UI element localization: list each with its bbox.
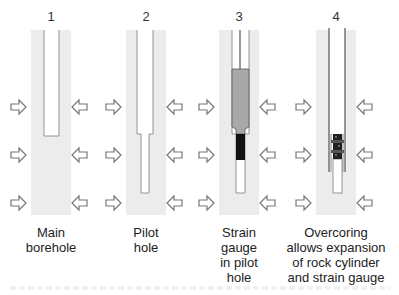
hollow-arrow-icon — [357, 100, 372, 114]
hollow-arrow-icon — [106, 196, 121, 210]
hollow-arrow-icon — [11, 100, 26, 114]
hollow-arrow-icon — [199, 100, 214, 114]
hollow-arrow-icon — [72, 100, 87, 114]
panel-number-4: 4 — [326, 9, 346, 24]
hollow-arrow-icon — [72, 148, 87, 162]
caption-line: allows expansion — [271, 240, 399, 255]
hollow-arrow-icon — [167, 100, 182, 114]
hollow-arrow-icon — [167, 148, 182, 162]
panel-3 — [219, 30, 259, 215]
hollow-arrow-icon — [11, 148, 26, 162]
panel-number-2: 2 — [136, 9, 156, 24]
panel-4 — [316, 28, 356, 215]
hollow-arrow-icon — [357, 196, 372, 210]
hollow-arrow-icon — [72, 196, 87, 210]
panel-number-1: 1 — [41, 9, 61, 24]
caption-line: Overcoring — [271, 225, 399, 240]
hollow-arrow-icon — [106, 100, 121, 114]
main-borehole — [44, 30, 59, 136]
panel-2 — [126, 30, 166, 215]
caption-line: and strain gauge — [271, 270, 399, 285]
hollow-arrow-icon — [357, 148, 372, 162]
hollow-arrow-icon — [167, 196, 182, 210]
caption-line: of rock cylinder — [271, 255, 399, 270]
caption-panel-4: Overcoring allows expansion of rock cyli… — [271, 225, 399, 285]
hollow-arrow-icon — [296, 148, 311, 162]
hollow-arrow-icon — [106, 148, 121, 162]
hollow-arrow-icon — [296, 196, 311, 210]
pilot-hole — [333, 159, 342, 193]
hollow-arrow-icon — [296, 100, 311, 114]
hollow-arrow-icon — [11, 196, 26, 210]
hollow-arrow-icon — [260, 148, 275, 162]
hollow-arrow-icon — [199, 148, 214, 162]
faint-bleed-through-text — [10, 286, 389, 290]
panel-1 — [31, 30, 71, 215]
panel-number-3: 3 — [229, 9, 249, 24]
hollow-arrow-icon — [199, 196, 214, 210]
strain-gauge — [236, 134, 245, 160]
hollow-arrow-icon — [260, 196, 275, 210]
installation-probe — [232, 69, 249, 134]
hollow-arrow-icon — [260, 100, 275, 114]
